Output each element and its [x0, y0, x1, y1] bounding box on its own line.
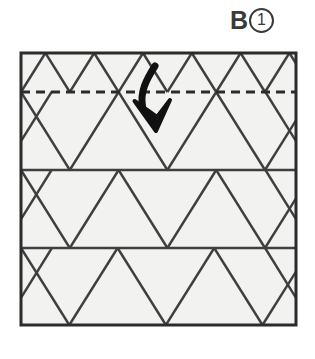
diagram-canvas: B 1 — [0, 0, 315, 359]
crease-pattern-figure — [0, 0, 315, 359]
paper-square — [21, 53, 296, 325]
